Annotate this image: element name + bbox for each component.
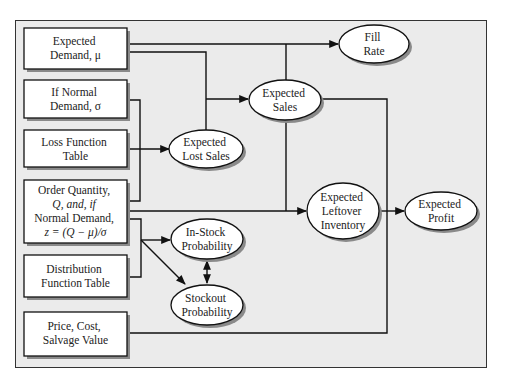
svg-text:If Normal Demand, σ: If Normal Demand, σ — [50, 86, 102, 113]
svg-text:In-Stock Probability: In-Stock Probability — [181, 226, 232, 253]
box-distribution-function-table: Distribution Function Table — [24, 255, 130, 300]
box-loss-function-table: Loss Function Table — [24, 130, 130, 170]
box-price-cost-salvage: Price, Cost, Salvage Value — [24, 312, 130, 359]
ellipse-expected-profit: Expected Profit — [405, 192, 480, 233]
svg-text:Price, Cost, Salvage V: Price, Cost, Salvage Value — [43, 320, 108, 347]
svg-text:Expected Leftover: Expected Leftover Inventory — [320, 191, 366, 232]
output-ellipses: Fill Rate Expected Sales Expected Lost S… — [169, 25, 480, 328]
box-order-quantity: Order Quantity, Q, and, if Normal Demand… — [24, 180, 130, 246]
svg-text:Stockout Probability: Stockout Probability — [181, 292, 232, 319]
input-boxes: Expected Demand, μ If Normal Demand, σ L… — [24, 28, 130, 359]
edge-demand-to-sales — [127, 52, 206, 130]
ellipse-expected-sales: Expected Sales — [249, 80, 324, 123]
svg-text:Order Quantity, Q, and: Order Quantity, Q, and, if Normal Demand… — [34, 184, 117, 239]
ellipse-fill-rate: Fill Rate — [339, 25, 412, 66]
newsvendor-flow-diagram: Expected Demand, μ If Normal Demand, σ L… — [0, 0, 509, 386]
box-expected-demand: Expected Demand, μ — [24, 28, 130, 72]
ellipse-in-stock-probability: In-Stock Probability — [171, 219, 246, 262]
box-text: Expected Demand, μ — [50, 35, 101, 62]
ellipse-stockout-probability: Stockout Probability — [171, 285, 246, 328]
box-normal-sigma: If Normal Demand, σ — [24, 80, 130, 121]
ellipse-expected-leftover-inventory: Expected Leftover Inventory — [307, 183, 382, 242]
ellipse-expected-lost-sales: Expected Lost Sales — [169, 130, 246, 171]
